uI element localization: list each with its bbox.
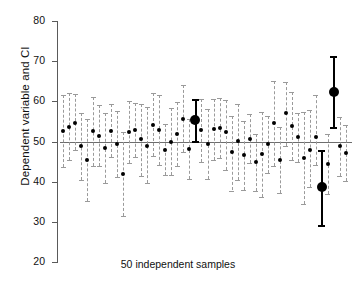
ci-cap (343, 125, 348, 126)
y-tick-label: 60 (21, 94, 45, 106)
ci-cap (283, 82, 288, 83)
data-point (212, 127, 216, 131)
data-point (248, 137, 252, 141)
y-tick-label: 70 (21, 54, 45, 66)
ci-cap (223, 100, 228, 101)
y-tick-mark (52, 61, 58, 62)
ci-cap (301, 112, 306, 113)
data-point (254, 160, 258, 164)
ci-cap (85, 119, 90, 120)
data-point (260, 152, 264, 156)
ci-cap (205, 179, 210, 180)
ci-cap (91, 97, 96, 98)
y-tick-mark (52, 262, 58, 263)
data-point (103, 146, 107, 150)
ci-cap (301, 204, 306, 205)
ci-bar (226, 100, 227, 170)
ci-series (60, 0, 352, 283)
ci-cap (307, 187, 312, 188)
data-point (127, 130, 131, 134)
ci-cap (97, 105, 102, 106)
ci-cap (343, 181, 348, 182)
y-tick-mark (52, 182, 58, 183)
ci-cap (181, 85, 186, 86)
data-point (206, 142, 210, 146)
ci-cap (313, 165, 318, 166)
chart-figure: Dependent variable and CI 50 independent… (0, 0, 356, 283)
ci-cap (265, 173, 270, 174)
ci-cap (330, 127, 337, 129)
ci-cap (79, 180, 84, 181)
ci-cap (247, 114, 252, 115)
ci-bar (316, 95, 317, 165)
ci-cap (85, 201, 90, 202)
data-point (308, 148, 312, 152)
y-tick-label: 50 (21, 135, 45, 147)
ci-cap (241, 121, 246, 122)
y-axis-label: Dependent variable and CI (19, 6, 31, 226)
y-tick-label: 40 (21, 175, 45, 187)
ci-cap (192, 141, 199, 143)
ci-cap (169, 108, 174, 109)
y-tick-label: 30 (21, 215, 45, 227)
data-point (242, 153, 246, 157)
plot-area (60, 0, 352, 283)
ci-cap (133, 157, 138, 158)
ci-cap (79, 113, 84, 114)
data-point (230, 150, 234, 154)
ci-cap (145, 107, 150, 108)
ci-cap (91, 166, 96, 167)
data-point (326, 162, 330, 166)
data-point (109, 129, 113, 133)
ci-cap (325, 194, 330, 195)
ci-cap (265, 116, 270, 117)
ci-cap (121, 132, 126, 133)
data-point (91, 129, 95, 133)
ci-cap (151, 93, 156, 94)
data-point (85, 158, 89, 162)
ci-cap (169, 175, 174, 176)
ci-cap (67, 160, 72, 161)
data-point (272, 121, 276, 125)
ci-cap (103, 113, 108, 114)
ci-cap (217, 158, 222, 159)
ci-cap (181, 152, 186, 153)
ci-cap (73, 150, 78, 151)
ci-cap (289, 160, 294, 161)
data-point (67, 125, 71, 129)
data-point (61, 129, 65, 133)
y-tick-mark (52, 101, 58, 102)
ci-cap (199, 162, 204, 163)
data-point (224, 130, 228, 134)
ci-cap (211, 160, 216, 161)
ci-cap (325, 134, 330, 135)
ci-cap (103, 183, 108, 184)
ci-cap (121, 216, 126, 217)
data-point (157, 128, 161, 132)
ci-cap (229, 191, 234, 192)
ci-cap (199, 99, 204, 100)
data-point (344, 151, 348, 155)
data-point-highlighted (329, 87, 339, 97)
ci-cap (139, 104, 144, 105)
data-point (314, 135, 318, 139)
ci-cap (163, 175, 168, 176)
ci-cap (151, 156, 156, 157)
ci-cap (253, 134, 258, 135)
y-tick-mark (52, 142, 58, 143)
ci-cap (235, 180, 240, 181)
ci-cap (163, 124, 168, 125)
ci-cap (271, 166, 276, 167)
ci-cap (127, 163, 132, 164)
data-point (181, 117, 185, 121)
ci-cap (157, 165, 162, 166)
ci-cap (271, 81, 276, 82)
data-point (115, 142, 119, 146)
ci-cap (205, 109, 210, 110)
ci-cap (109, 104, 114, 105)
ci-cap (318, 150, 325, 152)
data-point (302, 156, 306, 160)
data-point-highlighted (317, 182, 327, 192)
y-tick-mark (52, 222, 58, 223)
ci-cap (217, 98, 222, 99)
